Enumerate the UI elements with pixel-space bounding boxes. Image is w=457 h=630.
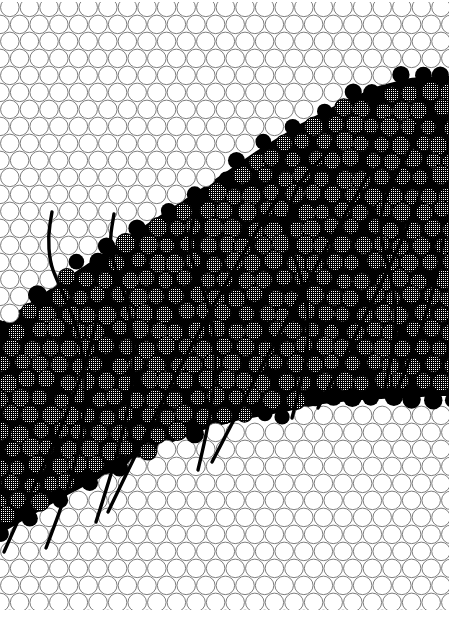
figure-root: Hexagonal close packed raft of equal bub… [0, 0, 457, 630]
bubble-raft-canvas [0, 0, 457, 630]
